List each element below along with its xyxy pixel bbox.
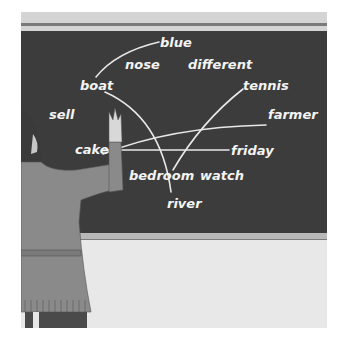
word-watch: watch: [200, 169, 244, 182]
word-bedroom: bedroom: [129, 169, 194, 182]
girl-hand: [109, 108, 122, 142]
word-nose: nose: [125, 58, 160, 71]
word-friday: friday: [231, 144, 274, 157]
word-cake: cake: [75, 143, 108, 156]
girl-arm: [109, 142, 123, 192]
girl-belt: [21, 250, 81, 256]
word-river: river: [167, 197, 202, 210]
word-farmer: farmer: [268, 108, 318, 121]
word-boat: boat: [80, 79, 113, 92]
word-blue: blue: [160, 36, 192, 49]
word-sell: sell: [49, 108, 74, 121]
girl-dress: [21, 162, 121, 312]
word-tennis: tennis: [243, 79, 289, 92]
illustration-frame: blue nose different boat tennis sell far…: [21, 12, 327, 328]
word-different: different: [188, 58, 252, 71]
